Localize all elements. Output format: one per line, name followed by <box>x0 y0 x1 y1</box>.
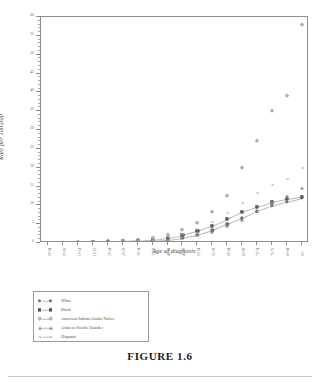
legend-marker-icon <box>49 299 52 302</box>
data-point <box>269 109 274 114</box>
figure-caption: FIGURE 1.6 <box>0 350 320 362</box>
y-axis-tick-label: 25 <box>30 146 34 150</box>
y-axis-tick-label: 55 <box>30 33 34 37</box>
legend-marker-pair <box>38 314 57 323</box>
x-axis-tick <box>167 242 168 245</box>
data-point <box>151 239 154 241</box>
data-point <box>270 184 273 186</box>
data-point <box>285 198 288 201</box>
footer-rule <box>8 376 312 377</box>
data-point <box>240 211 243 214</box>
data-point <box>180 228 185 233</box>
x-axis-tick <box>211 242 212 245</box>
data-point <box>300 167 303 169</box>
data-point <box>195 234 199 237</box>
data-point <box>240 166 245 171</box>
legend-label: Hispanic <box>61 334 76 339</box>
chart-legend: WhiteBlackAmerican Indian/Alaska NativeA… <box>33 291 149 342</box>
legend-marker-icon <box>49 336 52 338</box>
y-axis-tick-label: 35 <box>30 108 34 112</box>
data-point <box>180 237 184 240</box>
data-point <box>181 233 184 235</box>
data-point <box>241 202 244 204</box>
data-point <box>225 193 230 198</box>
y-axis-tick-label: 15 <box>30 184 34 188</box>
data-point <box>255 205 258 208</box>
legend-marker-icon <box>49 308 52 311</box>
x-axis-tick <box>92 242 93 245</box>
data-point <box>226 212 229 214</box>
legend-marker-icon <box>38 336 41 338</box>
data-point <box>211 224 214 227</box>
y-axis-tick-label: 60 <box>30 14 34 18</box>
data-point <box>210 209 215 214</box>
data-point <box>166 236 169 238</box>
legend-marker-icon <box>48 316 53 321</box>
x-axis-tick <box>47 242 48 245</box>
legend-marker-pair <box>38 305 57 314</box>
data-point <box>299 22 304 27</box>
x-axis-tick <box>286 242 287 245</box>
data-point <box>195 220 200 225</box>
data-point <box>270 204 273 207</box>
y-axis-title: Rate per 100,000 <box>0 114 4 160</box>
x-axis-tick <box>107 242 108 245</box>
legend-label: Black <box>61 307 71 312</box>
data-point <box>196 229 199 232</box>
x-axis-tick <box>256 242 257 245</box>
data-point <box>196 228 199 230</box>
plot-points-layer <box>41 17 307 241</box>
x-axis-tick <box>226 242 227 245</box>
data-point <box>225 225 229 228</box>
x-axis-tick <box>77 242 78 245</box>
data-point <box>254 139 259 144</box>
legend-marker-pair <box>38 323 57 332</box>
y-axis-tick <box>36 242 40 243</box>
legend-item[interactable]: Black <box>38 305 71 314</box>
data-point <box>226 218 229 221</box>
data-point <box>300 195 303 198</box>
x-axis-tick <box>62 242 63 245</box>
legend-marker-icon <box>38 299 41 302</box>
y-axis-tick-label: 5 <box>32 221 34 225</box>
x-axis-tick <box>181 242 182 245</box>
data-point <box>270 202 274 205</box>
y-axis-tick-label: 10 <box>30 203 34 207</box>
series-connector-line <box>242 211 257 218</box>
data-point <box>255 192 258 194</box>
legend-item[interactable]: Asian or Pacific Islander <box>38 323 103 332</box>
data-point <box>211 221 214 223</box>
legend-label: Asian or Pacific Islander <box>61 325 103 330</box>
x-axis-tick <box>137 242 138 245</box>
legend-label: White <box>61 298 71 303</box>
x-axis-title: Age at diagnosis <box>40 248 308 254</box>
x-axis-tick <box>271 242 272 245</box>
x-axis-tick <box>301 242 302 245</box>
plot-area <box>40 16 308 242</box>
data-point <box>210 230 214 233</box>
legend-marker-pair <box>38 296 57 305</box>
legend-marker-icon <box>37 316 42 321</box>
legend-item[interactable]: Hispanic <box>38 332 76 341</box>
data-point <box>136 240 139 241</box>
y-axis-tick-label: 20 <box>30 165 34 169</box>
data-point <box>255 209 259 212</box>
legend-marker-icon <box>38 308 41 311</box>
x-axis-tick <box>241 242 242 245</box>
legend-marker-pair <box>38 332 57 341</box>
legend-item[interactable]: White <box>38 296 71 305</box>
figure-page: Rate per 100,000 05101520253035404550556… <box>0 0 320 382</box>
x-axis-tick <box>122 242 123 245</box>
y-axis-tick-label: 30 <box>30 127 34 131</box>
legend-marker-icon <box>38 326 42 329</box>
legend-marker-icon <box>49 326 53 329</box>
y-axis-tick-label: 50 <box>30 52 34 56</box>
data-point <box>121 240 124 241</box>
legend-item[interactable]: American Indian/Alaska Native <box>38 314 115 323</box>
data-point <box>300 187 304 190</box>
legend-label: American Indian/Alaska Native <box>61 316 115 321</box>
data-point <box>285 194 289 197</box>
y-axis-tick-label: 40 <box>30 90 34 94</box>
chart-figure: Rate per 100,000 05101520253035404550556… <box>0 0 320 345</box>
data-point <box>284 94 289 99</box>
